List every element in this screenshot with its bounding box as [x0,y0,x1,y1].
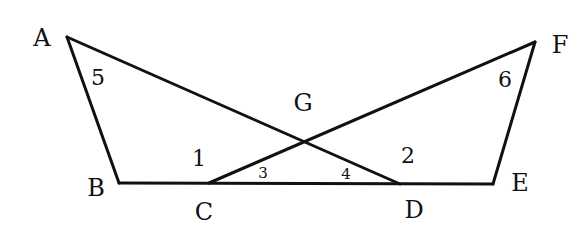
segment-EF [493,42,535,184]
point-label-g: G [293,89,312,117]
point-label-d: D [404,196,423,224]
angle-labels: 5 6 1 2 3 4 [91,65,512,183]
point-label-f: F [552,31,569,59]
angle-label-2: 2 [401,143,415,168]
point-label-c: C [195,198,213,226]
angle-label-5: 5 [91,65,105,90]
point-label-b: B [87,174,105,202]
point-label-e: E [511,169,529,197]
segment-AD [67,37,400,184]
geometry-diagram: A B C D E F G 5 6 1 2 3 4 [0,0,587,242]
angle-label-1: 1 [192,146,206,171]
segment-FC [209,42,535,183]
point-label-a: A [32,24,51,52]
angle-label-4: 4 [341,165,351,183]
angle-label-3: 3 [258,164,268,182]
point-labels: A B C D E F G [32,24,568,226]
segment-AB [67,37,119,183]
angle-label-6: 6 [498,67,512,92]
segment-BE [119,183,493,184]
